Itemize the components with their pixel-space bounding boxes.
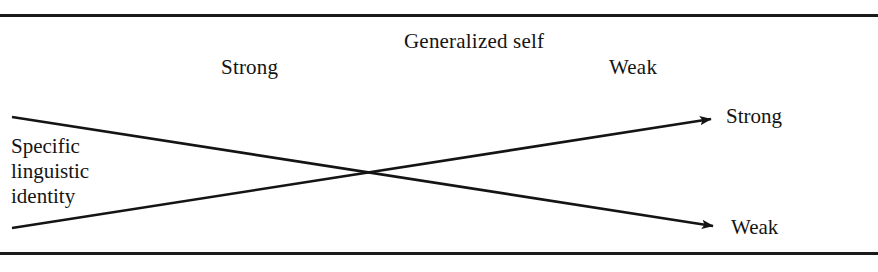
series-line-weak [12, 117, 713, 226]
interaction-figure: Generalized self Strong Weak Specific li… [0, 0, 878, 272]
bottom-rule [0, 252, 878, 255]
series-end-label-weak: Weak [731, 217, 778, 238]
series-line-strong [12, 119, 711, 228]
series-end-label-strong: Strong [726, 106, 782, 127]
